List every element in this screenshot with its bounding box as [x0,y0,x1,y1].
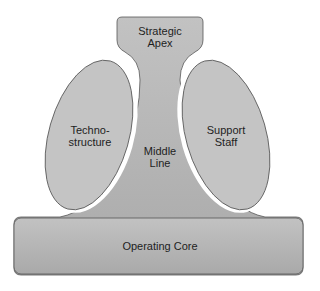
strategic-apex-line2: Apex [120,37,200,49]
strategic-apex-line1: Strategic [120,25,200,37]
middle-line-label: Middle Line [135,145,185,169]
support-staff-line1: Support [196,124,256,136]
technostructure-line2: structure [58,136,122,148]
technostructure-label: Techno- structure [58,124,122,148]
support-staff-line2: Staff [196,136,256,148]
technostructure-line1: Techno- [58,124,122,136]
support-staff-label: Support Staff [196,124,256,148]
middle-line-line2: Line [135,157,185,169]
middle-line-line1: Middle [135,145,185,157]
strategic-apex-label: Strategic Apex [120,25,200,49]
operating-core-label: Operating Core [100,240,220,252]
